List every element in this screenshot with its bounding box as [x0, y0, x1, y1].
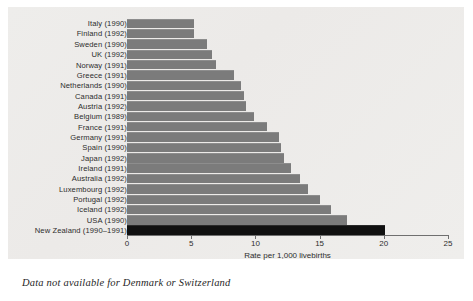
bar [127, 91, 244, 100]
bar [127, 174, 300, 183]
category-label: New Zealand (1990–1991) [35, 226, 127, 235]
bar [127, 39, 207, 48]
bar [127, 70, 234, 79]
category-label: Germany (1991) [70, 132, 127, 141]
bar-row: Luxembourg (1992) [8, 184, 464, 194]
bar-row: USA (1990) [8, 215, 464, 225]
x-tick-label: 25 [444, 239, 453, 248]
x-tick-label: 20 [379, 239, 388, 248]
bar-row: Ireland (1991) [8, 163, 464, 173]
category-label: Ireland (1991) [78, 164, 127, 173]
category-label: UK (1992) [91, 50, 127, 59]
category-label: Netherlands (1990) [60, 81, 127, 90]
bar [127, 19, 194, 28]
bar-row: New Zealand (1990–1991) [8, 225, 464, 235]
bar-row: Germany (1991) [8, 132, 464, 142]
bar-row: Austria (1992) [8, 101, 464, 111]
category-label: Finland (1992) [77, 29, 127, 38]
bar [127, 163, 291, 172]
figure-caption: Data not available for Denmark or Switze… [22, 277, 231, 288]
bar-row: Japan (1992) [8, 153, 464, 163]
category-label: Italy (1990) [88, 19, 127, 28]
chart-panel: Italy (1990)Finland (1992)Sweden (1990)U… [8, 7, 464, 259]
category-label: Iceland (1992) [77, 205, 127, 214]
bar [127, 195, 320, 204]
category-label: USA (1990) [87, 215, 127, 224]
bar [127, 81, 241, 90]
bar [127, 215, 347, 224]
bar-chart-plot: Italy (1990)Finland (1992)Sweden (1990)U… [8, 7, 464, 259]
figure-container: Italy (1990)Finland (1992)Sweden (1990)U… [0, 0, 473, 301]
category-label: Norway (1991) [76, 60, 127, 69]
bar [127, 112, 254, 121]
bar-row: Australia (1992) [8, 173, 464, 183]
bar [127, 122, 267, 131]
bar-row: Netherlands (1990) [8, 80, 464, 90]
bar-row: Iceland (1992) [8, 204, 464, 214]
bar-row: Finland (1992) [8, 28, 464, 38]
category-label: Greece (1991) [77, 70, 127, 79]
bar [127, 143, 281, 152]
category-label: France (1991) [78, 122, 127, 131]
category-label: Japan (1992) [81, 153, 127, 162]
bar-row: Italy (1990) [8, 18, 464, 28]
bar [127, 225, 385, 235]
bar [127, 101, 246, 110]
bar [127, 153, 284, 162]
category-label: Australia (1992) [72, 174, 127, 183]
bar [127, 29, 194, 38]
bar-row: Belgium (1989) [8, 111, 464, 121]
bar-row: Greece (1991) [8, 70, 464, 80]
bar [127, 205, 331, 214]
category-label: Luxembourg (1992) [59, 184, 127, 193]
x-tick-label: 15 [315, 239, 324, 248]
bar [127, 132, 279, 141]
category-label: Portugal (1992) [73, 195, 127, 204]
category-label: Sweden (1990) [74, 39, 127, 48]
bar-row: Portugal (1992) [8, 194, 464, 204]
bar-row: France (1991) [8, 122, 464, 132]
bar [127, 50, 212, 59]
category-label: Austria (1992) [78, 101, 127, 110]
x-axis-line [127, 235, 448, 236]
category-label: Canada (1991) [75, 91, 127, 100]
bar-row: Spain (1990) [8, 142, 464, 152]
x-tick-label: 0 [125, 239, 129, 248]
bar-row: UK (1992) [8, 49, 464, 59]
bar [127, 60, 216, 69]
x-tick-label: 10 [251, 239, 260, 248]
category-label: Belgium (1989) [74, 112, 127, 121]
category-label: Spain (1990) [82, 143, 127, 152]
bar-row: Norway (1991) [8, 59, 464, 69]
x-tick-label: 5 [189, 239, 193, 248]
bar-row: Sweden (1990) [8, 39, 464, 49]
x-axis-title: Rate per 1,000 livebirths [127, 251, 448, 260]
bar [127, 184, 308, 193]
bar-row: Canada (1991) [8, 90, 464, 100]
